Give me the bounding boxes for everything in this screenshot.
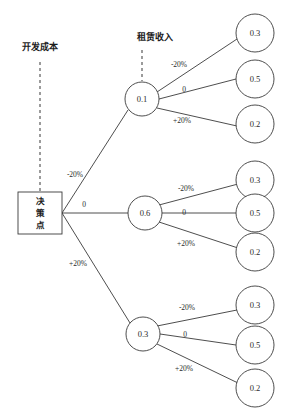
branch3-edge-label-zero: 0 (183, 330, 187, 339)
leaf-node-3-1-value: 0.3 (250, 300, 261, 310)
rental-income-label: 租赁收入 (137, 31, 173, 42)
leaf-node-3-3-value: 0.2 (250, 383, 261, 393)
branch1-edge-label-minus20: -20% (171, 60, 187, 69)
edge-node2-to-leaf23 (159, 222, 238, 248)
leaf-node-1-2-value: 0.5 (250, 74, 261, 84)
root-edge-label-zero: 0 (82, 200, 86, 209)
edge-node3-to-leaf32 (160, 334, 236, 345)
level1-node-2-value: 0.6 (140, 208, 151, 218)
decision-point-label-line-1: 决 (36, 196, 45, 206)
branch3-edge-label-minus20: -20% (179, 303, 195, 312)
branch2-edge-label-zero: 0 (182, 208, 186, 217)
leaf-node-1-1-value: 0.3 (250, 28, 261, 38)
leaf-node-1-3-value: 0.2 (250, 119, 261, 129)
leaf-node-2-3-value: 0.2 (250, 247, 261, 257)
branch3-edge-label-plus20: +20% (175, 364, 193, 373)
leaf-node-2-1-value: 0.3 (250, 175, 261, 185)
branch2-edge-label-minus20: -20% (178, 184, 194, 193)
branch2-edge-label-plus20: +20% (177, 239, 195, 248)
edge-node1-to-leaf11 (157, 39, 237, 92)
branch1-edge-label-plus20: +20% (173, 116, 191, 125)
development-cost-label: 开发成本 (22, 41, 59, 52)
level1-node-1-value: 0.1 (137, 94, 148, 104)
edge-node1-to-leaf13 (157, 108, 237, 126)
root-edge-label-plus20: +20% (69, 259, 87, 268)
edge-root-to-node3 (62, 213, 130, 323)
decision-point-label-line-2: 策 (35, 208, 45, 218)
decision-tree-diagram: 决 策 点 0.1 0.6 0.3 0.3 0.5 0.2 0.3 0.5 0.… (0, 0, 289, 414)
leaf-node-2-2-value: 0.5 (250, 208, 261, 218)
decision-point-label-line-3: 点 (36, 220, 45, 230)
level1-node-3-value: 0.3 (138, 329, 149, 339)
leaf-node-3-2-value: 0.5 (250, 340, 261, 350)
edge-node2-to-leaf21 (159, 184, 238, 205)
edge-node1-to-leaf12 (159, 79, 236, 99)
decision-tree-canvas: 决 策 点 0.1 0.6 0.3 0.3 0.5 0.2 0.3 0.5 0.… (0, 0, 289, 414)
edge-node3-to-leaf33 (157, 344, 238, 383)
edge-node3-to-leaf31 (157, 310, 237, 326)
root-edge-label-minus20: -20% (67, 170, 83, 179)
branch1-edge-label-zero: 0 (182, 85, 186, 94)
edge-root-to-node1 (62, 110, 128, 213)
